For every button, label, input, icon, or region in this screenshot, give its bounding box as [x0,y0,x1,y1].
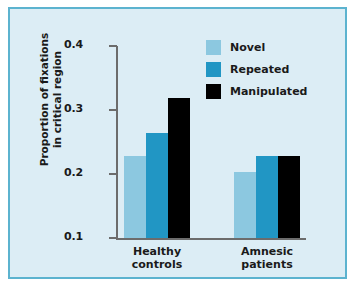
bar-novel-0 [124,156,146,238]
bar-novel-1 [234,172,256,238]
x-category-label: Amnesic patients [207,245,327,271]
figure-container: 0.10.20.30.4 Proportion of fixations in … [0,0,357,288]
bar-repeated-1 [256,156,278,238]
plot-area: 0.10.20.30.4 Proportion of fixations in … [10,9,345,277]
legend-item-manipulated: Manipulated [206,81,307,101]
bar-manipulated-0 [168,98,190,238]
legend-item-repeated: Repeated [206,59,307,79]
chart-legend: NovelRepeatedManipulated [206,37,307,103]
chart-panel: 0.10.20.30.4 Proportion of fixations in … [8,7,347,279]
legend-label: Novel [230,41,265,54]
legend-item-novel: Novel [206,37,307,57]
legend-label: Manipulated [230,85,307,98]
bar-manipulated-1 [278,156,300,238]
x-category-label: Healthy controls [97,245,217,271]
legend-label: Repeated [230,63,289,76]
legend-swatch-icon [206,62,221,77]
bar-repeated-0 [146,133,168,238]
legend-swatch-icon [206,84,221,99]
legend-swatch-icon [206,40,221,55]
